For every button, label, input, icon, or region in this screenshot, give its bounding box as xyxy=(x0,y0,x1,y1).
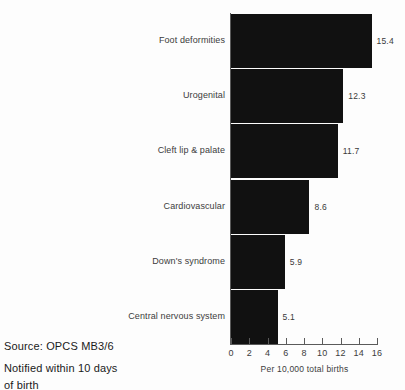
bar-row[interactable]: 5.9 xyxy=(231,235,377,289)
category-label: Central nervous system xyxy=(0,311,225,321)
x-axis-tick-label: 14 xyxy=(349,348,369,358)
x-axis-tick xyxy=(341,338,342,344)
bar-row[interactable]: 8.6 xyxy=(231,180,377,234)
x-axis-title: Per 10,000 total births xyxy=(231,364,378,374)
x-axis-tick-label: 16 xyxy=(367,348,387,358)
bar-value-label: 11.7 xyxy=(343,146,360,156)
category-label: Urogenital xyxy=(0,90,225,100)
x-axis-tick xyxy=(359,338,360,344)
bar-row[interactable]: 12.3 xyxy=(231,69,377,123)
x-axis-tick xyxy=(322,338,323,344)
bar-row[interactable]: 15.4 xyxy=(231,14,377,68)
bar[interactable] xyxy=(231,235,285,289)
bar-value-label: 12.3 xyxy=(348,91,365,101)
x-axis-tick-label: 2 xyxy=(239,348,259,358)
bar-row[interactable]: 11.7 xyxy=(231,124,377,178)
x-axis-tick xyxy=(304,338,305,344)
x-axis-tick-label: 10 xyxy=(312,348,332,358)
bar[interactable] xyxy=(231,69,343,123)
category-label: Cleft lip & palate xyxy=(0,145,225,155)
x-axis-tick xyxy=(286,338,287,344)
x-axis-tick-label: 6 xyxy=(276,348,296,358)
x-axis-tick xyxy=(249,338,250,344)
bar-value-label: 8.6 xyxy=(314,202,326,212)
bar-value-label: 5.1 xyxy=(283,312,295,322)
x-axis-tick xyxy=(377,338,378,344)
source-note: Source: OPCS MB3/6 xyxy=(4,338,194,355)
bar-row[interactable]: 5.1 xyxy=(231,290,377,344)
x-axis-tick-label: 0 xyxy=(221,348,241,358)
x-axis-tick-label: 12 xyxy=(331,348,351,358)
plot-area: 15.412.311.78.65.95.1 xyxy=(231,14,377,344)
bar-value-label: 15.4 xyxy=(377,36,394,46)
bar[interactable] xyxy=(231,290,278,344)
bar-chart-figure: 15.412.311.78.65.95.1 Foot deformitiesUr… xyxy=(0,0,405,390)
footnote-line-1: Notified within 10 days xyxy=(4,360,194,377)
bar[interactable] xyxy=(231,124,338,178)
category-label: Down's syndrome xyxy=(0,256,225,266)
x-axis-tick-label: 8 xyxy=(294,348,314,358)
bar[interactable] xyxy=(231,14,372,68)
x-axis-tick-label: 4 xyxy=(258,348,278,358)
bar[interactable] xyxy=(231,180,309,234)
chart-notes: Source: OPCS MB3/6 Notified within 10 da… xyxy=(4,338,194,390)
x-axis-tick xyxy=(268,338,269,344)
x-axis-tick xyxy=(231,338,232,344)
footnote-line-2: of birth xyxy=(4,377,194,390)
category-label: Foot deformities xyxy=(0,35,225,45)
category-label: Cardiovascular xyxy=(0,201,225,211)
x-axis-line xyxy=(230,344,378,345)
bar-value-label: 5.9 xyxy=(290,257,302,267)
